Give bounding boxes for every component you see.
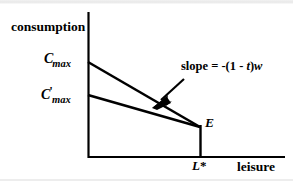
slope-annotation-wage: w	[254, 59, 262, 73]
budget-constraint-figure: consumption leisure Cmax C'max E L* slop…	[0, 0, 293, 185]
intercept-label-cmax: Cmax	[44, 52, 71, 69]
equilibrium-point-label: E	[205, 116, 214, 130]
lstar-asterisk: *	[200, 158, 207, 173]
slope-annotation-label: slope = -(1 - t)w	[181, 60, 262, 73]
x-tick-label-lstar: L*	[192, 159, 206, 172]
post-tax-budget-line	[88, 95, 200, 127]
intercept-cmax-subscript: max	[52, 58, 71, 69]
intercept-cmax-prime-subscript: max	[52, 94, 71, 105]
lstar-base: L	[192, 158, 200, 173]
slope-annotation-prefix: slope = -(1 -	[181, 59, 246, 73]
y-axis-label: consumption	[11, 20, 85, 34]
slope-annotation-arrow	[152, 79, 184, 110]
x-axis-label: leisure	[237, 160, 275, 174]
intercept-label-cmax-prime: C'max	[41, 84, 71, 106]
